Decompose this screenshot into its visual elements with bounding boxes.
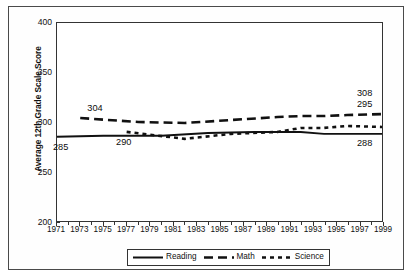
x-tick-mark-minor xyxy=(161,222,162,225)
y-axis-tick-labels: 200250300350400 xyxy=(22,22,52,222)
legend-entry-reading[interactable]: Reading xyxy=(133,253,197,262)
legend-label: Reading xyxy=(166,253,197,261)
y-tick-label: 250 xyxy=(28,168,52,177)
legend-entry-math[interactable]: Math xyxy=(204,253,255,262)
x-tick-label: 1999 xyxy=(368,226,398,234)
legend-swatch-science-icon xyxy=(262,253,292,262)
series-line-reading xyxy=(57,132,382,137)
chart-figure: Average 12th Grade Scale Score 200250300… xyxy=(0,0,412,280)
x-tick-mark-minor xyxy=(91,222,92,225)
series-lines xyxy=(57,23,382,221)
x-tick-mark-minor xyxy=(138,222,139,225)
legend-swatch-math-icon xyxy=(204,253,234,262)
plot-area xyxy=(56,22,383,222)
x-tick-mark-minor xyxy=(278,222,279,225)
x-tick-mark-minor xyxy=(371,222,372,225)
value-label-285: 285 xyxy=(53,143,68,152)
x-tick-mark-minor xyxy=(68,222,69,225)
legend-entry-science[interactable]: Science xyxy=(262,253,324,262)
legend-swatch-reading-icon xyxy=(133,253,163,262)
x-tick-mark-minor xyxy=(231,222,232,225)
x-tick-mark-minor xyxy=(325,222,326,225)
legend-label: Math xyxy=(237,253,255,261)
x-tick-mark-minor xyxy=(208,222,209,225)
value-label-295: 295 xyxy=(357,100,372,109)
series-line-math xyxy=(80,114,382,123)
x-tick-mark-minor xyxy=(348,222,349,225)
value-label-290: 290 xyxy=(116,138,131,147)
value-label-304: 304 xyxy=(87,104,102,113)
x-axis-tick-labels: 1971197319751977197919811983198519871989… xyxy=(56,226,383,240)
x-tick-mark-minor xyxy=(301,222,302,225)
series-line-science xyxy=(127,126,382,139)
chart-legend: ReadingMathScience xyxy=(127,249,330,266)
x-tick-mark-minor xyxy=(255,222,256,225)
value-label-288: 288 xyxy=(357,139,372,148)
x-tick-mark-minor xyxy=(114,222,115,225)
legend-label: Science xyxy=(295,253,324,261)
y-tick-label: 300 xyxy=(28,118,52,127)
value-label-308: 308 xyxy=(357,89,372,98)
x-tick-mark-minor xyxy=(184,222,185,225)
y-tick-label: 400 xyxy=(28,18,52,27)
y-tick-label: 350 xyxy=(28,68,52,77)
